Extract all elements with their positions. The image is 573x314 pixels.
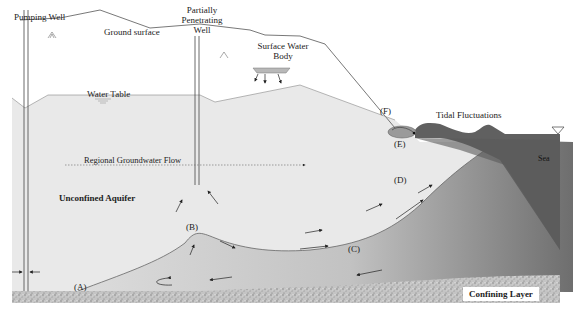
ppw-line-1: Partially [178, 5, 226, 15]
swb-line-2: Body [248, 51, 318, 61]
swb-line-1: Surface Water [248, 41, 318, 51]
regional-groundwater-flow-label: Regional Groundwater Flow [84, 155, 181, 165]
ground-surface-label: Ground surface [104, 27, 160, 37]
zone-marker-a: (A) [74, 282, 87, 292]
confining-layer-label: Confining Layer [463, 287, 539, 301]
zone-marker-e: (E) [394, 139, 406, 149]
ppw-line-3: Well [178, 25, 226, 35]
tidal-fluctuations-label: Tidal Fluctuations [436, 110, 501, 120]
pumping-well-label: Pumping Well [14, 12, 65, 22]
surface-water-body-label: Surface Water Body [248, 41, 318, 61]
partially-penetrating-well-label: Partially Penetrating Well [178, 5, 226, 35]
zone-marker-b: (B) [186, 222, 198, 232]
zone-marker-c: (C) [348, 244, 360, 254]
ppw-line-2: Penetrating [178, 15, 226, 25]
sea-label: Sea [538, 154, 550, 164]
ground-marker-1 [48, 32, 56, 38]
water-table-label: Water Table [87, 89, 130, 99]
sea-level-symbol [552, 127, 564, 134]
ground-marker-2 [220, 52, 228, 58]
surface-water-body [253, 68, 290, 73]
zone-marker-f: (F) [380, 106, 391, 116]
unconfined-aquifer-label: Unconfined Aquifer [59, 193, 135, 203]
zone-marker-d: (D) [394, 175, 407, 185]
